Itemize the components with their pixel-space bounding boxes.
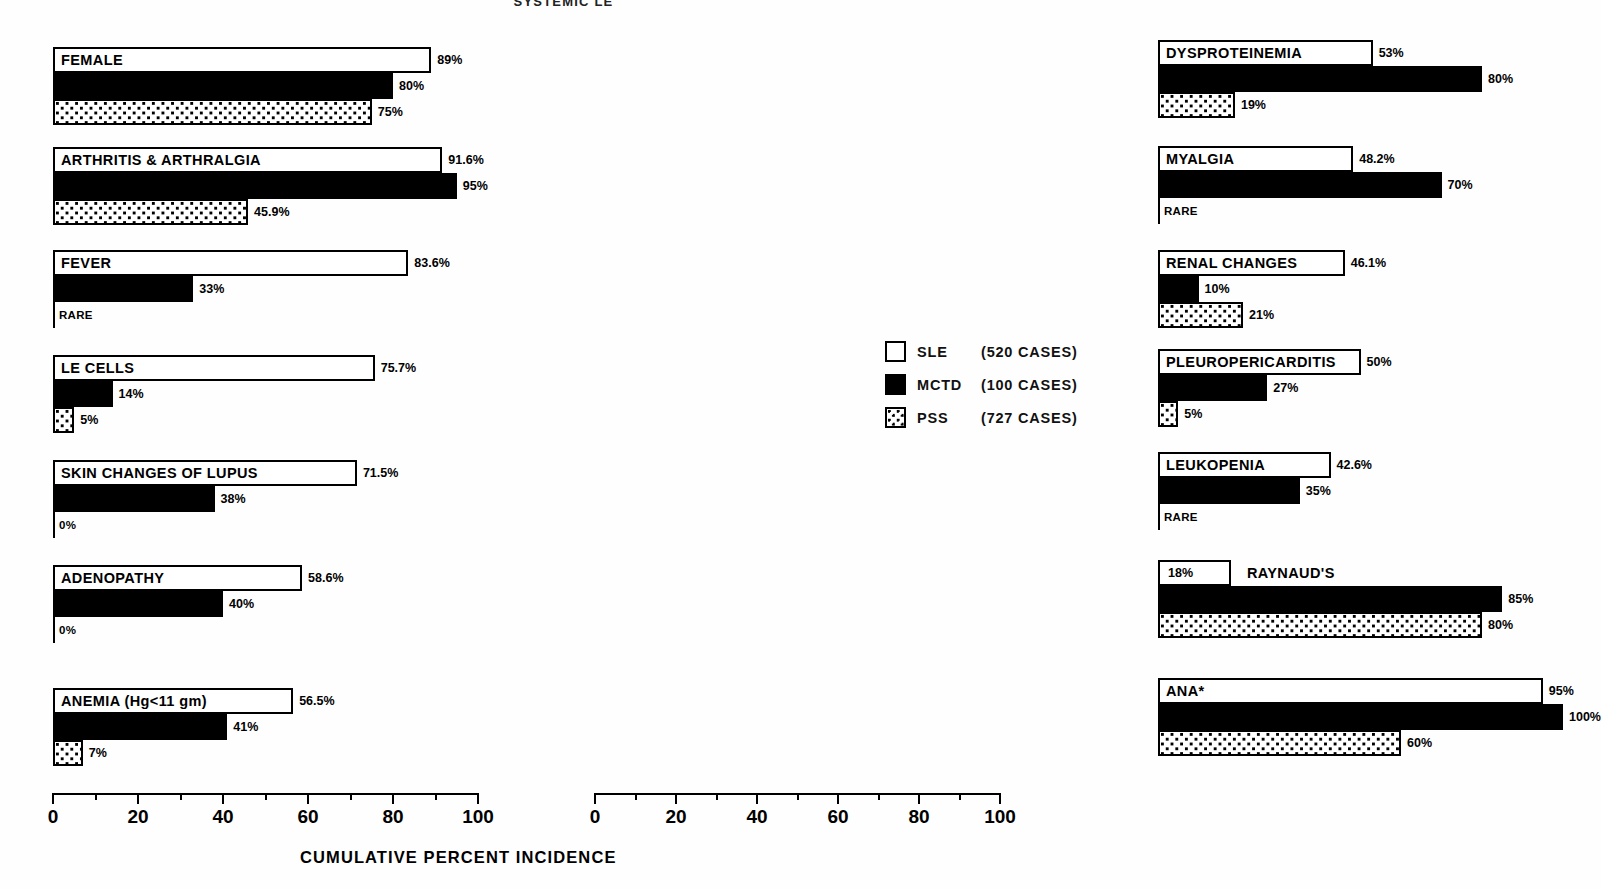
value-label: 58.6%	[302, 565, 343, 591]
value-label: 83.6%	[408, 250, 449, 276]
value-label: 0%	[53, 617, 76, 643]
value-label: 42.6%	[1331, 452, 1372, 478]
value-label: 56.5%	[293, 688, 334, 714]
bar-row: 10%	[563, 276, 1126, 302]
axis-tick-label: 60	[827, 806, 848, 828]
bar-sle	[1158, 678, 1543, 704]
value-label: 89%	[431, 47, 462, 73]
value-label: 35%	[1300, 478, 1331, 504]
bar-group: ADENOPATHY58.6%40%0%	[0, 565, 563, 643]
value-label: RARE	[1158, 198, 1198, 224]
bar-row: ANA*95%	[563, 678, 1126, 704]
value-label: 14%	[113, 381, 144, 407]
category-label: FEMALE	[53, 47, 123, 73]
value-label: 18%	[1168, 560, 1193, 586]
chart-legend: SLE(520 CASES)MCTD(100 CASES)PSS(727 CAS…	[885, 337, 1120, 437]
bar-mctd	[53, 591, 223, 617]
axis-tick-label: 80	[908, 806, 929, 828]
legend-item-pss[interactable]: PSS(727 CASES)	[885, 403, 1120, 433]
bar-row: 40%	[0, 591, 563, 617]
bar-mctd	[1158, 704, 1563, 730]
bar-row: 85%	[563, 586, 1126, 612]
bar-row: RARE	[563, 504, 1126, 530]
value-label: 80%	[1482, 612, 1513, 638]
bar-group: MYALGIA48.2%70%RARE	[563, 146, 1126, 224]
bar-row: 95%	[0, 173, 563, 199]
legend-label: MCTD	[917, 370, 962, 400]
category-label: MYALGIA	[1158, 146, 1234, 172]
value-label: RARE	[53, 302, 93, 328]
bar-row: 38%	[0, 486, 563, 512]
legend-swatch-mctd-icon	[885, 374, 906, 395]
legend-item-sle[interactable]: SLE(520 CASES)	[885, 337, 1120, 367]
bar-row: 5%	[0, 407, 563, 433]
bar-row: ANEMIA (Hg<11 gm)56.5%	[0, 688, 563, 714]
axis-tick	[675, 793, 677, 804]
bar-row: LEUKOPENIA42.6%	[563, 452, 1126, 478]
bar-row: FEMALE89%	[0, 47, 563, 73]
legend-cases: (100 CASES)	[981, 370, 1078, 400]
axis-tick	[797, 793, 799, 800]
value-label: 5%	[1178, 401, 1202, 427]
bar-row: 80%	[563, 612, 1126, 638]
bar-row: 0%	[0, 617, 563, 643]
bar-row: 19%	[563, 92, 1126, 118]
value-label: 27%	[1267, 375, 1298, 401]
value-label: 7%	[83, 740, 107, 766]
x-axis-right: 020406080100	[0, 793, 1127, 835]
category-label: LE CELLS	[53, 355, 134, 381]
value-label: 85%	[1502, 586, 1533, 612]
axis-tick	[635, 793, 637, 800]
bar-row: 14%	[0, 381, 563, 407]
legend-label: SLE	[917, 337, 948, 367]
bar-group: SKIN CHANGES OF LUPUS71.5%38%0%	[0, 460, 563, 538]
bar-mctd	[1158, 478, 1300, 504]
bar-row: 45.9%	[0, 199, 563, 225]
value-label: 33%	[193, 276, 224, 302]
category-label: SKIN CHANGES OF LUPUS	[53, 460, 258, 486]
bar-mctd	[53, 73, 393, 99]
legend-cases: (727 CASES)	[981, 403, 1078, 433]
value-label: 80%	[1482, 66, 1513, 92]
category-label: ANEMIA (Hg<11 gm)	[53, 688, 207, 714]
bar-pss	[1158, 730, 1401, 756]
category-label: PLEUROPERICARDITIS	[1158, 349, 1336, 375]
value-label: 75%	[372, 99, 403, 125]
value-label: 95%	[1543, 678, 1574, 704]
legend-swatch-pss-icon	[885, 407, 906, 428]
axis-tick	[594, 793, 596, 804]
axis-tick	[756, 793, 758, 804]
bar-group: FEVER83.6%33%RARE	[0, 250, 563, 328]
bar-group: LEUKOPENIA42.6%35%RARE	[563, 452, 1126, 530]
bar-group: ANEMIA (Hg<11 gm)56.5%41%7%	[0, 688, 563, 766]
bar-group: FEMALE89%80%75%	[0, 47, 563, 125]
value-label: 48.2%	[1353, 146, 1394, 172]
value-label: 5%	[74, 407, 98, 433]
value-label: 60%	[1401, 730, 1432, 756]
value-label: 71.5%	[357, 460, 398, 486]
axis-tick	[959, 793, 961, 800]
value-label: 70%	[1442, 172, 1473, 198]
bar-row: 41%	[0, 714, 563, 740]
bar-mctd	[53, 486, 215, 512]
bar-pss	[1158, 92, 1235, 118]
axis-tick	[918, 793, 920, 804]
value-label: 10%	[1199, 276, 1230, 302]
value-label: 21%	[1243, 302, 1274, 328]
axis-tick	[878, 793, 880, 800]
bar-row: RARE	[563, 198, 1126, 224]
value-label: 80%	[393, 73, 424, 99]
bar-row: RAYNAUD'S18%	[563, 560, 1126, 586]
axis-tick-label: 0	[590, 806, 601, 828]
bar-row: ADENOPATHY58.6%	[0, 565, 563, 591]
value-label: 38%	[215, 486, 246, 512]
category-label: RAYNAUD'S	[1239, 560, 1335, 586]
bar-row: 35%	[563, 478, 1126, 504]
legend-item-mctd[interactable]: MCTD(100 CASES)	[885, 370, 1120, 400]
bar-mctd	[53, 714, 227, 740]
bar-row: MYALGIA48.2%	[563, 146, 1126, 172]
value-label: RARE	[1158, 504, 1198, 530]
category-label: RENAL CHANGES	[1158, 250, 1297, 276]
category-label: FEVER	[53, 250, 111, 276]
